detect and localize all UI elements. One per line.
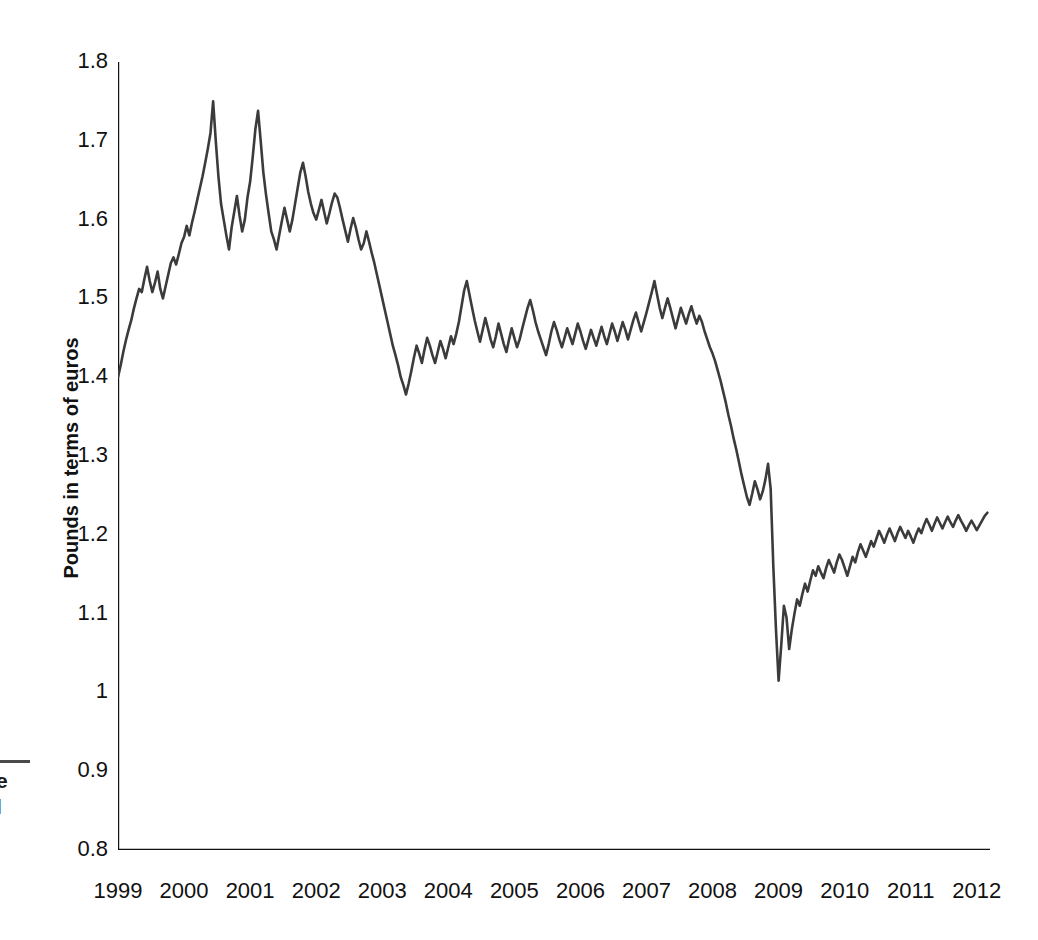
y-axis-tick-label: 0.8 (48, 838, 108, 860)
y-axis-tick-label: 1.4 (48, 365, 108, 387)
y-axis-tick-label: 1.2 (48, 523, 108, 545)
caption-rule (0, 760, 30, 763)
caption-fragment: e l (0, 760, 40, 820)
y-axis-tick-label: 1.1 (48, 602, 108, 624)
y-axis-tick-label: 1.7 (48, 129, 108, 151)
plot-svg (118, 62, 990, 850)
y-axis-tick-label: 0.9 (48, 759, 108, 781)
data-series-line (118, 101, 987, 680)
x-axis-tick-label: 2012 (932, 878, 1022, 904)
y-axis-tick-label: 1.8 (48, 50, 108, 72)
y-axis-tick-labels: 1.81.71.61.51.41.31.21.110.90.8 (38, 0, 108, 940)
y-axis-tick-label: 1.6 (48, 208, 108, 230)
x-axis-tick-labels: 1999200020012002200320042005200620072008… (0, 878, 1038, 918)
figure-chart-exchange-rate: e l Pounds in terms of euros 1.81.71.61.… (0, 0, 1038, 940)
y-axis-tick-label: 1 (48, 680, 108, 702)
y-axis-tick-label: 1.5 (48, 286, 108, 308)
y-axis-tick-label: 1.3 (48, 444, 108, 466)
plot-area (118, 62, 990, 850)
caption-fragment-line-2: l (0, 794, 40, 820)
caption-fragment-line-1: e (0, 768, 40, 794)
